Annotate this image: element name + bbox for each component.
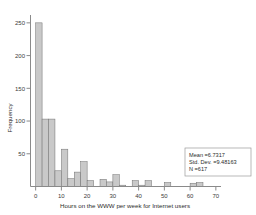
x-tick-label: 60 [187, 193, 194, 199]
x-tick-label: 70 [213, 193, 220, 199]
histogram-bar [145, 181, 151, 187]
stat-stddev-label: Std. Dev. =9.48163 [189, 159, 237, 165]
histogram-canvas: 50100150200250 010203040506070 Frequency… [0, 0, 256, 215]
histogram-bar [55, 171, 61, 187]
histogram-bar [197, 183, 203, 187]
x-tick-label: 30 [110, 193, 117, 199]
histogram-bar [100, 179, 106, 186]
histogram-bar [42, 119, 48, 186]
histogram-bar [36, 23, 42, 187]
y-tick-label: 250 [15, 20, 26, 26]
histogram-bar [68, 179, 74, 187]
x-axis-title: Hours on the WWW per week for Internet u… [60, 202, 190, 209]
histogram-figure: 50100150200250 010203040506070 Frequency… [0, 0, 256, 215]
y-tick-label: 50 [18, 151, 25, 157]
y-tick-label: 150 [15, 86, 26, 92]
x-tick-label: 20 [84, 193, 91, 199]
stat-mean-label: Mean =6.7317 [189, 152, 225, 158]
histogram-bar [49, 119, 55, 186]
histogram-bar [87, 181, 93, 187]
y-tick-label: 100 [15, 118, 26, 124]
histogram-bar [113, 175, 119, 187]
histogram-bar [74, 172, 80, 186]
y-tick-label: 200 [15, 53, 26, 59]
stat-n-label: N =617 [189, 166, 207, 172]
x-tick-label: 40 [135, 193, 142, 199]
histogram-bar [132, 181, 138, 187]
histogram-bar [106, 182, 112, 187]
histogram-bar [81, 162, 87, 187]
y-axis-title: Frequency [6, 102, 13, 132]
x-tick-label: 10 [58, 193, 65, 199]
histogram-bar [61, 149, 67, 186]
histogram-bar [164, 183, 170, 187]
x-tick-label: 50 [161, 193, 168, 199]
